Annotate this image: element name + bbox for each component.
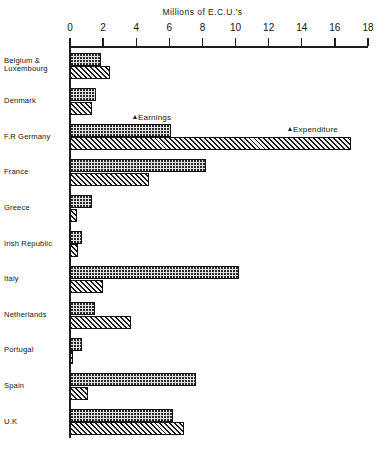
x-tick-6 [169, 38, 170, 46]
bar-belgium-earnings [70, 53, 101, 66]
x-tick-8 [202, 38, 203, 46]
bar-greece-expenditure [70, 209, 77, 222]
annotation-expenditure-text: Expenditure [293, 125, 338, 134]
x-tick-label-2: 2 [100, 22, 106, 33]
x-tick-2 [102, 38, 103, 46]
bar-portugal-earnings [70, 338, 82, 351]
category-label-belgium-line2: Luxembourg [4, 65, 66, 74]
bar-denmark-expenditure [70, 102, 92, 115]
bar-netherlands-earnings [70, 302, 95, 315]
category-label-portugal: Portugal [4, 346, 66, 355]
category-label-ireland: Irish Republic [4, 240, 66, 249]
plot-area [70, 48, 368, 440]
x-tick-14 [301, 38, 302, 46]
bar-netherlands-expenditure [70, 316, 131, 329]
chart-title-text: Millions of E.C.U.'s [144, 7, 242, 17]
bar-uk-expenditure [70, 422, 184, 435]
bar-germany-earnings [70, 124, 171, 137]
x-tick-12 [268, 38, 269, 46]
bar-france-expenditure [70, 173, 149, 186]
annotation-expenditure: Expenditure [288, 125, 338, 134]
x-tick-label-6: 6 [167, 22, 173, 33]
bar-denmark-earnings [70, 88, 96, 101]
bar-ireland-earnings [70, 231, 82, 244]
category-label-germany: F.R Germany [4, 133, 66, 142]
chart-title: Millions of E.C.U.'s [0, 7, 387, 17]
bar-spain-earnings [70, 373, 196, 386]
pointer-triangle-icon [133, 115, 137, 119]
annotation-earnings: Earnings [133, 113, 171, 122]
category-label-denmark: Denmark [4, 97, 66, 106]
x-tick-label-18: 18 [362, 22, 373, 33]
bar-italy-earnings [70, 266, 239, 279]
x-tick-10 [235, 38, 236, 46]
bar-chart: Millions of E.C.U.'s 024681012141618 Bel… [0, 0, 387, 453]
bar-greece-earnings [70, 195, 92, 208]
x-tick-label-14: 14 [296, 22, 307, 33]
category-label-uk: U.K [4, 418, 66, 427]
x-tick-label-10: 10 [230, 22, 241, 33]
bar-spain-expenditure [70, 387, 88, 400]
bar-belgium-expenditure [70, 66, 110, 79]
category-label-spain: Spain [4, 382, 66, 391]
bar-portugal-expenditure [70, 351, 73, 364]
bar-italy-expenditure [70, 280, 103, 293]
category-label-netherlands: Netherlands [4, 311, 66, 320]
x-tick-4 [136, 38, 137, 46]
bar-uk-earnings [70, 409, 173, 422]
x-tick-label-4: 4 [133, 22, 139, 33]
annotation-earnings-text: Earnings [138, 113, 171, 122]
x-tick-label-0: 0 [67, 22, 73, 33]
bar-france-earnings [70, 159, 206, 172]
x-tick-label-16: 16 [329, 22, 340, 33]
x-tick-0 [69, 38, 70, 46]
x-tick-16 [334, 38, 335, 46]
category-label-italy: Italy [4, 275, 66, 284]
x-tick-label-8: 8 [200, 22, 206, 33]
x-tick-label-12: 12 [263, 22, 274, 33]
category-label-belgium: Belgium &Luxembourg [4, 57, 66, 74]
x-tick-18 [367, 38, 368, 46]
category-label-greece: Greece [4, 204, 66, 213]
category-label-france: France [4, 168, 66, 177]
pointer-triangle-icon [288, 127, 292, 131]
bar-germany-expenditure [70, 137, 351, 150]
bar-ireland-expenditure [70, 244, 78, 257]
